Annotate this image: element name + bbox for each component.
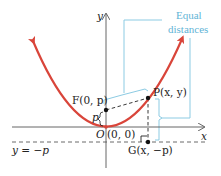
directrix-label: y = −p bbox=[11, 144, 49, 156]
y-axis-label: y bbox=[96, 10, 104, 22]
parabola-curve bbox=[33, 39, 182, 127]
point-p bbox=[146, 96, 150, 100]
point-g-label: G(x, −p) bbox=[128, 144, 173, 156]
p-brace bbox=[98, 112, 103, 126]
p-distance-label: p bbox=[92, 111, 99, 123]
parabola-diagram: y x F(0, p) P(x, y) p O (0, 0) G(x, −p) … bbox=[0, 0, 221, 176]
focus-point bbox=[104, 108, 108, 112]
equal-distances-label-line1: Equal bbox=[176, 9, 202, 21]
origin-letter: O bbox=[96, 128, 105, 140]
origin-coords-label: (0, 0) bbox=[107, 128, 135, 140]
equal-distances-bracket bbox=[104, 20, 190, 140]
x-axis-label: x bbox=[201, 130, 207, 142]
focus-label: F(0, p) bbox=[72, 94, 108, 106]
equal-distances-label-line2: distances bbox=[168, 23, 208, 35]
point-p-label: P(x, y) bbox=[153, 86, 187, 98]
